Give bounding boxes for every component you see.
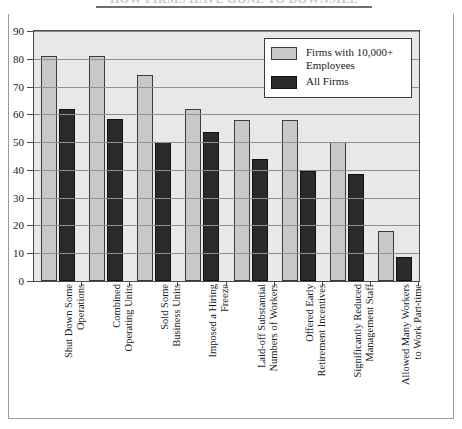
bar-group: [34, 31, 82, 281]
bar-large-firms: [185, 109, 201, 281]
x-axis-category-label: Imposed a Hiring Freeze: [207, 284, 230, 416]
bar-all-firms: [59, 109, 75, 281]
bar-group: [130, 31, 178, 281]
bar-group: [82, 31, 130, 281]
y-axis-tick: [27, 31, 33, 32]
bar-all-firms: [203, 132, 219, 281]
page-left-rule: [8, 14, 9, 419]
y-axis-tick-label: 70: [13, 81, 24, 92]
gridline: [34, 31, 419, 32]
bar-all-firms: [155, 142, 171, 281]
y-axis-tick: [27, 170, 33, 171]
y-axis-tick-label: 40: [13, 164, 24, 175]
y-axis-tick-label: 60: [13, 109, 24, 120]
dark-swatch-icon: [271, 76, 297, 89]
x-axis-category-label: Significantly Reduced Management Staff: [352, 284, 375, 416]
x-axis-category-label: Allowed Many Workers to Work Part-time: [400, 284, 423, 416]
gridline: [34, 170, 419, 171]
light-swatch-icon: [271, 47, 297, 60]
legend-label-large-firms: Firms with 10,000+ Employees: [306, 46, 405, 72]
bar-chart: 0102030405060708090 Firms with 10,000+ E…: [33, 30, 420, 282]
y-axis-tick: [27, 253, 33, 254]
page-right-rule: [453, 14, 454, 419]
y-axis-tick: [27, 114, 33, 115]
y-axis-tick: [27, 87, 33, 88]
gridline: [34, 114, 419, 115]
bar-all-firms: [396, 257, 412, 281]
y-axis-tick: [27, 281, 33, 282]
page-root: HOW FIRMS HAVE GONE TO DOWNSIZE 01020304…: [0, 0, 462, 429]
chart-legend: Firms with 10,000+ Employees All Firms: [264, 38, 412, 98]
y-axis-tick: [27, 142, 33, 143]
bar-large-firms: [330, 142, 346, 281]
bar-group: [178, 31, 226, 281]
gridline: [34, 142, 419, 143]
bar-large-firms: [282, 120, 298, 281]
legend-label-all-firms: All Firms: [306, 75, 348, 88]
y-axis-tick-label: 0: [19, 276, 25, 287]
x-axis-category-labels: Shut Down Some OperationsCombined Operat…: [33, 284, 420, 424]
bar-large-firms: [234, 120, 250, 281]
bar-large-firms: [378, 231, 394, 281]
y-axis-tick: [27, 198, 33, 199]
y-axis-tick: [27, 225, 33, 226]
x-axis-category-label: Shut Down Some Operations: [63, 284, 86, 416]
y-axis-tick-label: 10: [13, 248, 24, 259]
bar-large-firms: [41, 56, 57, 281]
gridline: [34, 253, 419, 254]
gridline: [34, 225, 419, 226]
x-axis-category-label: Offered Early Retirement Incentives: [304, 284, 327, 416]
y-axis-tick: [27, 59, 33, 60]
x-axis-category-label: Sold Some Business Units: [159, 284, 182, 416]
y-axis-tick-label: 30: [13, 192, 24, 203]
bar-all-firms: [348, 174, 364, 281]
y-axis-tick-label: 50: [13, 137, 24, 148]
y-axis-tick-label: 80: [13, 53, 24, 64]
x-axis-category-label: Laid-off Substantial Numbers of Workers: [256, 284, 279, 416]
legend-item-all-firms: All Firms: [271, 75, 405, 89]
y-axis-tick-label: 90: [13, 26, 24, 37]
bar-large-firms: [89, 56, 105, 281]
legend-item-large-firms: Firms with 10,000+ Employees: [271, 46, 405, 72]
x-axis-category-label: Combined Operating Units: [111, 284, 134, 416]
bar-large-firms: [137, 75, 153, 281]
title-underline-rule: [96, 6, 372, 8]
gridline: [34, 198, 419, 199]
y-axis-tick-label: 20: [13, 220, 24, 231]
bar-all-firms: [252, 159, 268, 281]
